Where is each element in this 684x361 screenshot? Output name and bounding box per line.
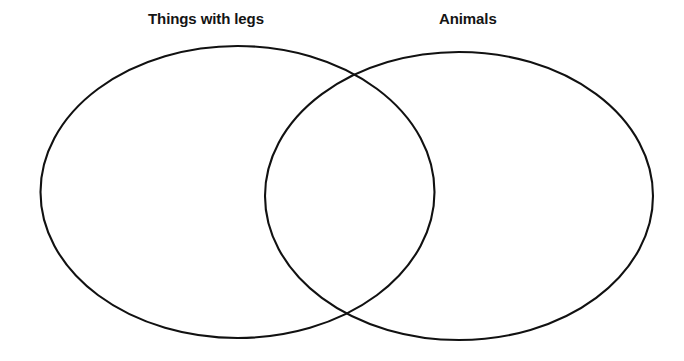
left-set-label: Things with legs [148, 11, 264, 26]
venn-diagram-canvas: Things with legs Animals [0, 0, 684, 361]
right-set-label: Animals [439, 11, 497, 26]
region-intersection[interactable] [309, 84, 389, 304]
region-left-only[interactable] [50, 72, 270, 312]
venn-diagram-svg [0, 0, 684, 361]
region-right-only[interactable] [435, 76, 645, 316]
